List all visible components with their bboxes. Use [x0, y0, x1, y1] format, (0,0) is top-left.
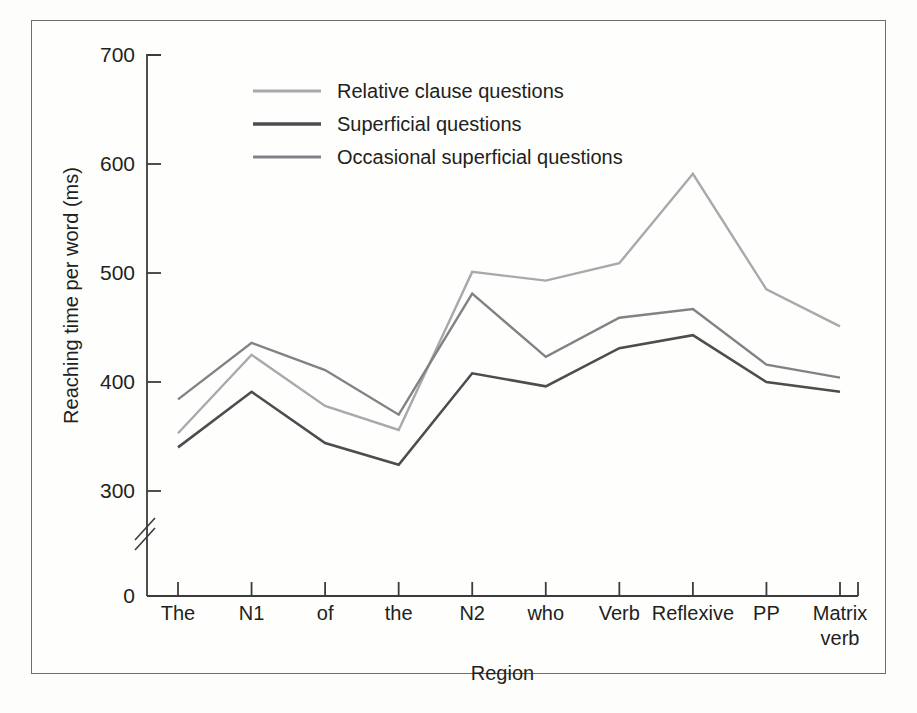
y-tick-label: 500	[100, 261, 135, 284]
series-line-1	[178, 174, 840, 433]
x-tick-label: Reflexive	[652, 602, 734, 624]
y-axis: 7006005004003000	[100, 43, 161, 607]
legend-label-3: Occasional superficial questions	[337, 146, 623, 168]
y-tick-label-zero: 0	[123, 584, 135, 607]
series-line-2	[178, 335, 840, 465]
y-axis-line	[147, 55, 161, 596]
x-tick-label: N2	[459, 602, 485, 624]
figure-container: 7006005004003000 TheN1oftheN2whoVerbRefl…	[0, 0, 917, 713]
x-tick-label: Matrix	[813, 602, 867, 624]
legend-label-2: Superficial questions	[337, 113, 522, 135]
x-tick-label: The	[161, 602, 195, 624]
axis-break-mark	[135, 518, 155, 540]
y-tick-label: 600	[100, 152, 135, 175]
chart-plot: 7006005004003000 TheN1oftheN2whoVerbRefl…	[0, 0, 917, 713]
x-tick-label: of	[317, 602, 334, 624]
y-tick-label: 400	[100, 370, 135, 393]
x-tick-label: N1	[239, 602, 265, 624]
x-axis-title: Region	[471, 662, 534, 684]
legend-label-1: Relative clause questions	[337, 80, 564, 102]
x-tick-label: the	[385, 602, 413, 624]
x-axis: TheN1oftheN2whoVerbReflexivePPMatrixverb	[147, 582, 867, 649]
series-line-3	[178, 294, 840, 415]
chart-legend: Relative clause questionsSuperficial que…	[253, 80, 623, 168]
y-tick-label: 700	[100, 43, 135, 66]
x-tick-label: Verb	[599, 602, 640, 624]
data-series-group	[178, 174, 840, 465]
x-tick-label: who	[526, 602, 564, 624]
axis-break-mark	[135, 528, 155, 550]
x-tick-label: verb	[821, 627, 860, 649]
y-tick-label: 300	[100, 479, 135, 502]
x-tick-label: PP	[753, 602, 780, 624]
y-axis-title: Reaching time per word (ms)	[60, 167, 82, 424]
